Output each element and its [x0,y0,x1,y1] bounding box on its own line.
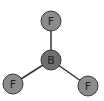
atom-label: F [48,15,54,28]
atom-b-center: B [41,50,61,70]
atom-label: F [85,80,91,93]
bf3-molecule-diagram: F B F F [0,0,104,101]
atom-f-left: F [3,74,23,94]
atom-label: F [10,78,16,91]
atom-f-top: F [41,11,61,31]
atom-f-right: F [78,76,98,96]
atom-label: B [47,54,55,67]
